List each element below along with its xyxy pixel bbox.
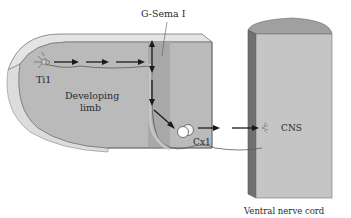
cord-top (248, 18, 332, 34)
limb-label-line2: limb (80, 102, 101, 113)
gsema-label: G-Sema I (141, 8, 186, 19)
nerve-cord-label: Ventral nerve cord (243, 206, 325, 216)
cord-side (248, 30, 256, 198)
limb-neuron-guidance-diagram: G-Sema I Ti1 Developing limb Cx1 CNS Ven… (0, 0, 351, 218)
ventral-nerve-cord (248, 18, 332, 198)
limb-label-line1: Developing (65, 90, 119, 101)
ti1-label: Ti1 (36, 74, 51, 85)
cx1-label: Cx1 (193, 137, 211, 147)
cns-label: CNS (281, 123, 302, 133)
cord-face (256, 34, 332, 198)
